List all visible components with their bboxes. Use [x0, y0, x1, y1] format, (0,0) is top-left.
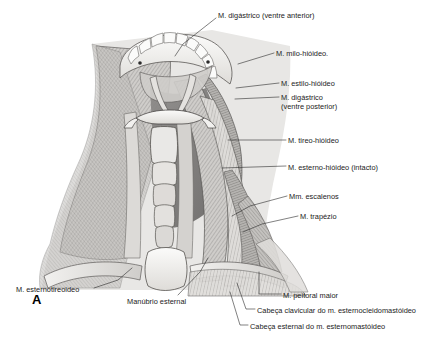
mental-foramen-left	[138, 61, 142, 65]
label-cabeca-esternal: Cabeça esternal do m. esternomastóideo	[250, 322, 385, 331]
label-esternotireoideo: M. esternotireoideo	[16, 285, 79, 294]
trachea-rings	[152, 162, 177, 249]
label-cabeca-clavicular: Cabeça clavicular do m. esternocleidomas…	[257, 306, 416, 315]
mental-foramen-right	[206, 60, 210, 64]
label-estilo-hioideo: M. estilo-hióideo	[281, 79, 335, 88]
label-manubrio-esternal: Manúbrio esternal	[127, 297, 187, 306]
manubrium-sterni	[145, 248, 187, 291]
label-esterno-hioideo: M. esterno-hióideo (intacto)	[288, 163, 378, 172]
label-tireo-hioideo: M. tireo-hióideo	[288, 136, 339, 145]
label-digastrico-posterior-l2: (ventre posterior)	[281, 102, 337, 111]
thyroid-cartilage	[151, 127, 178, 166]
anatomical-illustration: M. digástrico (ventre anterior)M. milo-h…	[0, 0, 434, 347]
leader-line-cabeca-esternal	[230, 292, 248, 325]
label-trapezio: M. trapézio	[300, 212, 337, 221]
label-milo-hioideo: M. milo-hióideo.	[276, 49, 328, 58]
label-escalenos: Mm. escalenos	[289, 192, 339, 201]
label-digastrico-posterior-l1: M. digástrico	[281, 93, 323, 102]
neck-body	[39, 30, 308, 296]
label-digastrico-anterior: M. digástrico (ventre anterior)	[218, 11, 315, 20]
label-peitoral-maior: M. peitoral maior	[283, 291, 339, 300]
figure-letter: A	[32, 292, 41, 307]
